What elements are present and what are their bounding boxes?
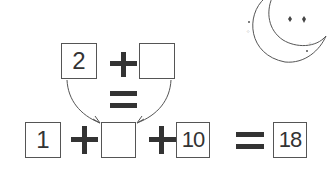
arrow-right-curve <box>137 80 171 123</box>
equals-symbol <box>236 132 264 149</box>
top-right-box[interactable] <box>139 43 175 79</box>
bottom-box-1[interactable]: 1 <box>25 122 61 158</box>
bottom-box-3[interactable]: 10 <box>176 122 210 158</box>
result-box[interactable]: 18 <box>273 122 307 158</box>
plus-symbol <box>110 52 137 77</box>
moon-icon <box>253 0 326 62</box>
equals-symbol <box>110 91 137 108</box>
plus-symbol <box>149 126 176 154</box>
svg-text:⁘: ⁘ <box>246 28 250 34</box>
svg-text:⁘: ⁘ <box>308 40 312 46</box>
arrow-left-curve <box>67 80 100 123</box>
bottom-box-2[interactable] <box>101 122 136 158</box>
top-left-box[interactable]: 2 <box>61 43 97 79</box>
plus-symbol <box>71 126 98 154</box>
star-icon <box>288 16 306 23</box>
